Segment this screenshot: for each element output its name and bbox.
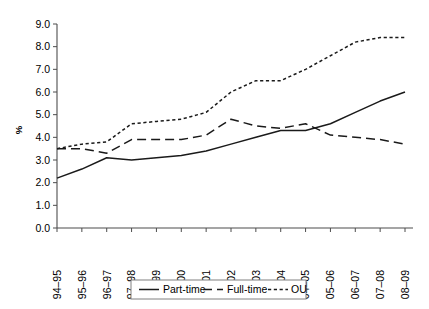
y-tick-label: 9.0 [35,18,50,30]
y-axis: 0.01.02.03.04.05.06.07.08.09.0 [35,18,57,234]
y-tick-label: 0.0 [35,222,50,234]
y-axis-title: % [13,125,24,134]
y-tick-label: 2.0 [35,176,50,188]
series-line-full-time [57,119,405,153]
series-line-ou [57,38,405,149]
legend-label-full-time: Full-time [227,283,267,295]
series-line-part-time [57,92,405,178]
chart-figure: 0.01.02.03.04.05.06.07.08.09.0 94–9595–9… [0,0,429,309]
y-axis-title-text: % [13,125,24,134]
y-tick-label: 4.0 [35,131,50,143]
x-tick-label: 05–06 [324,270,336,299]
legend-label-ou: OU [291,283,307,295]
x-tick-label: 96–97 [101,270,113,299]
legend-label-part-time: Part-time [163,283,206,295]
x-tick-label: 07–08 [374,270,386,299]
line-chart: 0.01.02.03.04.05.06.07.08.09.0 94–9595–9… [0,0,429,309]
y-tick-label: 5.0 [35,108,50,120]
y-tick-label: 8.0 [35,40,50,52]
x-tick-label: 95–96 [76,270,88,299]
y-tick-label: 7.0 [35,63,50,75]
chart-legend: Part-timeFull-timeOU [131,280,307,299]
series-lines [57,38,405,179]
y-tick-label: 3.0 [35,154,50,166]
y-tick-label: 6.0 [35,86,50,98]
x-tick-label: 94–95 [51,270,63,299]
x-tick-label: 06–07 [349,270,361,299]
y-tick-label: 1.0 [35,199,50,211]
x-tick-label: 08–09 [399,270,411,299]
